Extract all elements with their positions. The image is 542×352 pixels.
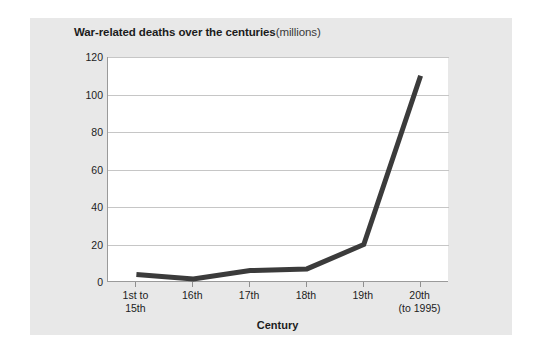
x-tick-label-5: 20th(to 1995) [399, 289, 441, 314]
x-tick-0 [135, 282, 136, 287]
x-tick-label-0: 1st to15th [123, 289, 149, 314]
x-tick-label-line: 1st to [123, 289, 149, 302]
plot-wrap: 020406080100120 1st to15th16th17th18th19… [107, 57, 448, 282]
x-tick-label-line: 16th [182, 289, 202, 302]
x-tick-label-2: 17th [239, 289, 259, 302]
x-tick-1 [192, 282, 193, 287]
x-tick-label-line: 19th [353, 289, 373, 302]
x-tick-label-line: 17th [239, 289, 259, 302]
y-tick-label-20: 20 [91, 239, 103, 251]
y-tick-label-80: 80 [91, 126, 103, 138]
plot-area [107, 57, 448, 282]
x-tick-3 [306, 282, 307, 287]
chart-title-main: War-related deaths over the centuries [74, 26, 276, 38]
x-tick-2 [249, 282, 250, 287]
x-tick-label-line: (to 1995) [399, 302, 441, 315]
series-line-chart [108, 57, 449, 282]
y-tick-label-60: 60 [91, 164, 103, 176]
y-tick-label-120: 120 [85, 51, 103, 63]
x-tick-label-4: 19th [353, 289, 373, 302]
figure-card: War-related deaths over the centuries(mi… [30, 18, 512, 335]
x-tick-4 [363, 282, 364, 287]
x-tick-label-line: 15th [123, 302, 149, 315]
chart-title-units: (millions) [276, 26, 321, 38]
x-tick-label-1: 16th [182, 289, 202, 302]
y-tick-label-100: 100 [85, 89, 103, 101]
y-tick-label-0: 0 [97, 276, 103, 288]
chart-title: War-related deaths over the centuries(mi… [74, 26, 321, 38]
x-tick-label-3: 18th [296, 289, 316, 302]
x-tick-label-line: 20th [399, 289, 441, 302]
y-tick-label-40: 40 [91, 201, 103, 213]
x-tick-label-line: 18th [296, 289, 316, 302]
series-war-deaths [136, 76, 420, 279]
x-tick-5 [420, 282, 421, 287]
x-axis-title: Century [107, 319, 448, 331]
